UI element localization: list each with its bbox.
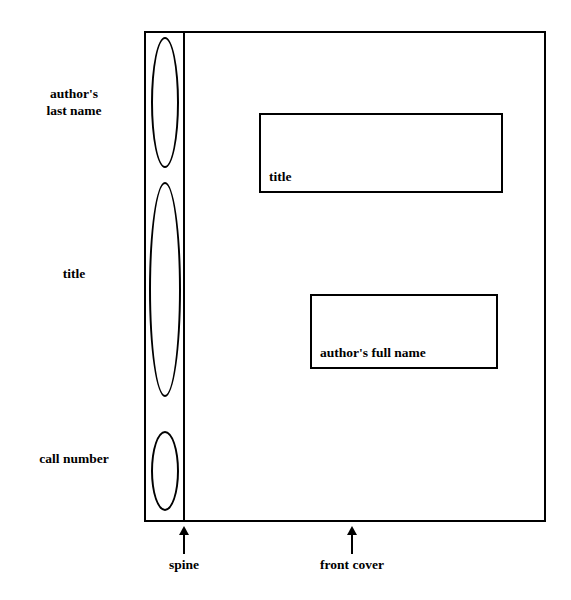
cover-title-box-label: title [269,169,292,185]
spine-cover-divider [183,31,185,522]
spine-ellipse-author-last-name [151,37,179,168]
side-label-call-number: call number [10,450,138,467]
side-label-title: title [18,265,130,282]
arrow-up-icon-spine [124,526,244,554]
callout-front-cover: front cover [292,526,412,573]
book-outline [144,31,546,522]
callout-spine: spine [124,526,244,573]
diagram-canvas: title author's full name author's last n… [0,0,571,600]
arrow-shaft-front-cover [351,533,353,554]
cover-author-full-name-box-label: author's full name [320,345,426,361]
side-label-author-last-name: author's last name [18,85,130,120]
callout-caption-spine: spine [124,557,244,573]
cover-author-full-name-box: author's full name [310,294,498,369]
arrow-up-icon-front-cover [292,526,412,554]
spine-ellipse-call-number [151,431,179,511]
spine-ellipse-title [149,182,181,397]
callout-caption-front-cover: front cover [292,557,412,573]
arrow-shaft-spine [183,533,185,554]
cover-title-box: title [259,113,503,193]
